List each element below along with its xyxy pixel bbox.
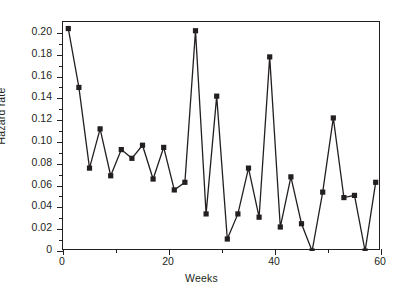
y-axis-tick-minor — [59, 131, 63, 132]
hazard-rate-polyline — [68, 29, 375, 251]
data-point-marker — [76, 85, 81, 90]
y-axis-tick-label: 0.16 — [8, 69, 52, 81]
y-axis-tick-minor — [59, 196, 63, 197]
y-axis-tick-label: 0.20 — [8, 25, 52, 37]
data-point-marker — [98, 126, 103, 131]
x-axis-tick-label: 40 — [254, 255, 294, 267]
data-point-marker — [182, 180, 187, 185]
y-axis-tick-minor — [59, 109, 63, 110]
y-axis-tick-label: 0.10 — [8, 134, 52, 146]
y-axis-tick-major — [57, 98, 63, 99]
data-point-marker — [363, 248, 368, 251]
data-point-marker — [288, 174, 293, 179]
y-axis-tick-label: 0.18 — [8, 47, 52, 59]
data-point-marker — [119, 147, 124, 152]
data-point-marker — [235, 211, 240, 216]
data-point-marker — [193, 28, 198, 33]
x-axis-tick-minor — [222, 249, 223, 253]
y-axis-tick-label: 0 — [8, 243, 52, 255]
data-point-marker — [161, 145, 166, 150]
y-axis-tick-major — [57, 55, 63, 56]
y-axis-tick-major — [57, 164, 63, 165]
x-axis-tick-label: 0 — [42, 255, 82, 267]
hazard-rate-line-series — [63, 22, 381, 251]
plot-area — [62, 21, 380, 250]
y-axis-tick-label: 0.08 — [8, 156, 52, 168]
x-axis-title: Weeks — [0, 272, 403, 284]
data-point-marker — [140, 143, 145, 148]
y-axis-tick-minor — [59, 240, 63, 241]
y-axis-tick-label: 0.14 — [8, 90, 52, 102]
x-axis-tick-label: 20 — [148, 255, 188, 267]
y-axis-tick-label: 0.12 — [8, 112, 52, 124]
data-point-marker — [257, 215, 262, 220]
hazard-rate-chart-figure: 00.020.040.060.080.100.120.140.160.180.2… — [0, 0, 403, 294]
data-point-marker — [204, 211, 209, 216]
data-point-marker — [310, 248, 315, 251]
data-point-marker — [151, 176, 156, 181]
data-point-marker — [373, 180, 378, 185]
data-point-marker — [225, 236, 230, 241]
y-axis-tick-label: 0.02 — [8, 221, 52, 233]
y-axis-tick-label: 0.04 — [8, 199, 52, 211]
x-axis-tick-label: 60 — [360, 255, 400, 267]
data-point-marker — [172, 187, 177, 192]
data-point-marker — [66, 26, 71, 31]
data-point-marker — [87, 166, 92, 171]
data-point-marker — [246, 166, 251, 171]
data-point-marker — [129, 156, 134, 161]
data-point-marker — [299, 221, 304, 226]
x-axis-tick-minor — [116, 249, 117, 253]
data-point-marker — [278, 224, 283, 229]
y-axis-tick-major — [57, 207, 63, 208]
y-axis-tick-label: 0.06 — [8, 178, 52, 190]
y-axis-tick-minor — [59, 218, 63, 219]
y-axis-tick-major — [57, 142, 63, 143]
y-axis-tick-minor — [59, 66, 63, 67]
data-point-marker — [108, 173, 113, 178]
y-axis-tick-minor — [59, 87, 63, 88]
x-axis-tick-minor — [328, 249, 329, 253]
data-point-marker — [267, 54, 272, 59]
data-point-marker — [341, 195, 346, 200]
y-axis-tick-minor — [59, 153, 63, 154]
data-point-marker — [352, 193, 357, 198]
data-point-marker — [214, 94, 219, 99]
y-axis-tick-major — [57, 229, 63, 230]
y-axis-tick-major — [57, 77, 63, 78]
data-point-marker — [320, 190, 325, 195]
y-axis-tick-minor — [59, 44, 63, 45]
data-point-marker — [331, 115, 336, 120]
y-axis-title: Hazard rate — [0, 87, 7, 144]
y-axis-tick-major — [57, 120, 63, 121]
y-axis-tick-minor — [59, 175, 63, 176]
y-axis-tick-major — [57, 33, 63, 34]
y-axis-tick-major — [57, 186, 63, 187]
